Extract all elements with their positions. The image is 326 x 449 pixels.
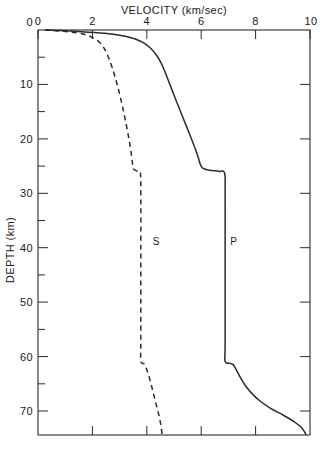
chart-title: VELOCITY (km/sec): [121, 4, 227, 16]
s-wave-label: S: [153, 236, 160, 247]
x-tick-label-0: 0: [35, 15, 42, 27]
y-tick-label-60: 60: [20, 351, 33, 363]
y-tick-label-20: 20: [20, 133, 33, 145]
s-wave-curve: [45, 30, 162, 434]
y-tick-label-40: 40: [20, 242, 33, 254]
x-tick-label-2: 2: [89, 15, 96, 27]
velocity-depth-figure: VELOCITY (km/sec) 0 2 4 6 8 10 0 10 20 3…: [0, 0, 326, 449]
y-tick-label-10: 10: [20, 78, 33, 90]
p-wave-curve: [46, 30, 306, 434]
x-tick-label-6: 6: [198, 15, 205, 27]
plot-border: [38, 30, 310, 435]
y-tick-label-30: 30: [20, 187, 33, 199]
x-axis-bottom-ticks: [92, 426, 255, 435]
y-tick-label-50: 50: [20, 296, 33, 308]
x-tick-label-8: 8: [252, 15, 259, 27]
plot-frame: [38, 30, 310, 435]
chart-svg: VELOCITY (km/sec) 0 2 4 6 8 10 0 10 20 3…: [0, 0, 326, 449]
x-tick-label-10: 10: [304, 15, 317, 27]
y-tick-label-70: 70: [20, 405, 33, 417]
y-axis-title: DEPTH (km): [4, 217, 16, 283]
p-wave-label: P: [230, 236, 237, 247]
y-axis-left-ticks: [38, 57, 48, 411]
y-tick-label-0: 0: [26, 16, 33, 28]
y-axis-right-ticks: [300, 84, 310, 411]
x-tick-label-4: 4: [144, 15, 151, 27]
